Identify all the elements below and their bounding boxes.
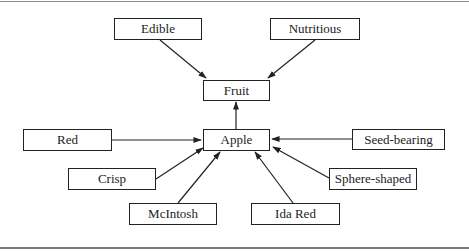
node-fruit: Fruit <box>203 80 270 101</box>
node-seed-bearing: Seed-bearing <box>352 129 445 150</box>
edge-edible-fruit <box>160 40 206 78</box>
node-mcintosh: McIntosh <box>129 203 217 225</box>
node-nutritious: Nutritious <box>270 18 360 40</box>
edge-crisp-apple <box>156 148 203 179</box>
edge-nutritious-fruit <box>268 40 315 78</box>
node-crisp: Crisp <box>68 168 156 190</box>
node-ida-red: Ida Red <box>251 203 340 225</box>
edge-idared-apple <box>255 152 293 203</box>
node-sphere-shaped: Sphere-shaped <box>329 168 417 190</box>
edge-sphereshaped-apple <box>273 147 329 178</box>
node-edible: Edible <box>114 18 202 40</box>
node-apple: Apple <box>203 129 270 151</box>
edges-layer <box>0 0 469 252</box>
node-red: Red <box>23 129 112 151</box>
